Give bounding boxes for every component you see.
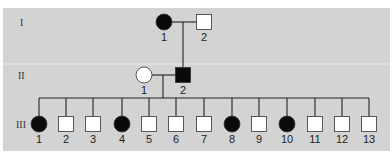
unaffected-male-symbol (308, 117, 323, 132)
affected-female-symbol (279, 116, 295, 132)
generation-label-I: I (20, 17, 23, 28)
individual-number-label: 10 (281, 133, 293, 145)
individual-number-label: 4 (119, 133, 125, 145)
individual-III-11: 11 (308, 117, 323, 146)
unaffected-male-symbol (86, 117, 101, 132)
affected-female-symbol (156, 14, 172, 30)
individual-number-label: 1 (36, 133, 42, 145)
individual-number-label: 11 (309, 133, 320, 145)
individual-number-label: 2 (201, 31, 207, 43)
generation-label-II: II (18, 70, 25, 81)
individual-number-label: 9 (256, 133, 262, 145)
unaffected-male-symbol (362, 117, 377, 132)
affected-male-symbol (176, 68, 191, 83)
individual-number-label: 3 (90, 133, 96, 145)
affected-female-symbol (31, 116, 47, 132)
individual-number-label: 6 (173, 133, 179, 145)
individual-number-label: 8 (229, 133, 235, 145)
individual-number-label: 13 (363, 133, 375, 145)
affected-female-symbol (114, 116, 130, 132)
individual-number-label: 2 (180, 84, 186, 96)
unaffected-female-symbol (136, 67, 152, 83)
individual-number-label: 7 (201, 133, 207, 145)
unaffected-male-symbol (59, 117, 74, 132)
unaffected-male-symbol (142, 117, 157, 132)
generation-label-III: III (16, 119, 26, 130)
unaffected-male-symbol (252, 117, 267, 132)
affected-female-symbol (224, 116, 240, 132)
pedigree-chart: I II III 121212345678910111213 (0, 0, 392, 158)
unaffected-male-symbol (197, 117, 212, 132)
individual-III-13: 13 (362, 117, 377, 146)
individual-number-label: 1 (141, 84, 147, 96)
individual-number-label: 2 (63, 133, 69, 145)
unaffected-male-symbol (169, 117, 184, 132)
individual-number-label: 5 (146, 133, 152, 145)
individual-number-label: 1 (161, 31, 167, 43)
unaffected-male-symbol (335, 117, 350, 132)
individual-number-label: 12 (336, 133, 348, 145)
unaffected-male-symbol (197, 15, 212, 30)
individual-III-12: 12 (335, 117, 350, 146)
